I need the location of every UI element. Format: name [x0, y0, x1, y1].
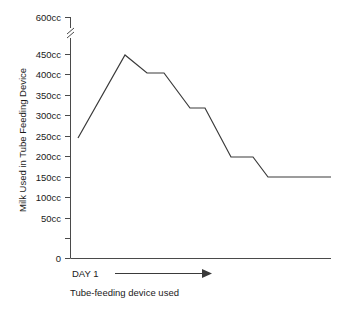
line-chart: 600cc 450cc 400cc 350cc 300cc 250cc 200c… [0, 0, 338, 309]
y-tick-label-600: 600cc [36, 12, 62, 23]
y-tick-label-350: 350cc [36, 90, 62, 101]
y-tick-label-200: 200cc [36, 151, 62, 162]
y-axis-title: Milk Used in Tube Feeding Device [17, 68, 28, 212]
y-tick-label-400: 400cc [36, 69, 62, 80]
data-series-line [78, 55, 331, 177]
axis-break-icon [67, 28, 74, 38]
time-arrow-head-icon [202, 269, 212, 278]
y-tick-label-150: 150cc [36, 172, 62, 183]
y-tick-label-450: 450cc [36, 49, 62, 60]
y-tick-label-250: 250cc [36, 131, 62, 142]
y-tick-label-50: 50cc [41, 213, 61, 224]
day-1-label: DAY 1 [72, 268, 99, 279]
x-axis-caption: Tube-feeding device used [70, 287, 179, 298]
y-tick-label-300: 300cc [36, 110, 62, 121]
y-tick-label-100: 100cc [36, 192, 62, 203]
chart-container: 600cc 450cc 400cc 350cc 300cc 250cc 200c… [0, 0, 338, 309]
y-tick-label-0: 0 [56, 253, 61, 264]
